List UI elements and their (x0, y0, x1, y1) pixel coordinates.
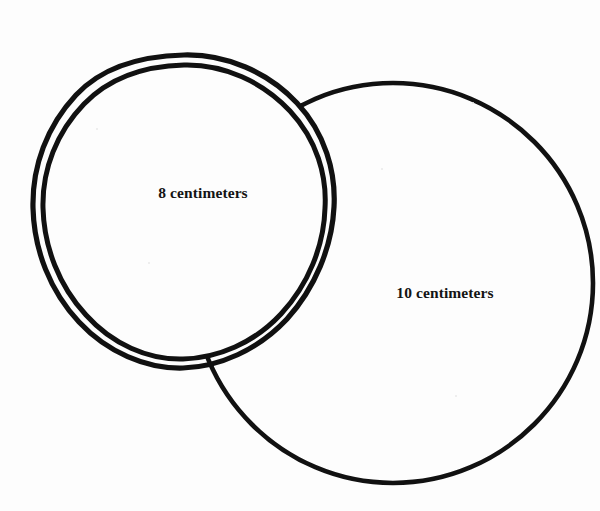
large-circle-arc (193, 83, 593, 483)
large-circle-label: 10 centimeters (396, 284, 493, 302)
small-circle-outline (33, 55, 334, 368)
diagram-canvas: 8 centimeters 10 centimeters (0, 0, 600, 511)
circles-diagram (0, 0, 600, 511)
small-circle-label: 8 centimeters (158, 184, 248, 202)
